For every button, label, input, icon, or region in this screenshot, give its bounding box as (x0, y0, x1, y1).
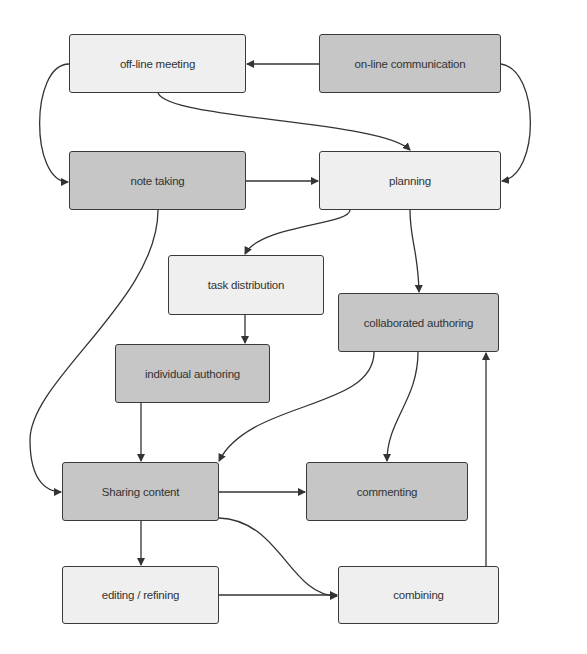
node-offline-meeting: off-line meeting (69, 34, 246, 93)
edge-planning-collab (410, 210, 419, 292)
node-combining: combining (338, 566, 499, 624)
edge-offline-note (40, 64, 69, 182)
edge-offline-planning (158, 93, 410, 150)
node-task-distribution: task distribution (168, 255, 324, 315)
node-planning: planning (319, 151, 501, 210)
node-individual-authoring: individual authoring (115, 344, 270, 403)
node-sharing-content: Sharing content (62, 462, 219, 521)
edge-online-planning (501, 64, 530, 181)
edge-planning-task (245, 210, 350, 254)
node-online-communication: on-line communication (319, 34, 501, 93)
node-commenting: commenting (306, 462, 468, 521)
edge-sharing-combining (219, 518, 337, 596)
node-editing-refining: editing / refining (62, 566, 219, 624)
edge-collab-commenting (387, 352, 418, 461)
node-note-taking: note taking (69, 151, 246, 210)
node-collaborated-authoring: collaborated authoring (338, 293, 499, 352)
